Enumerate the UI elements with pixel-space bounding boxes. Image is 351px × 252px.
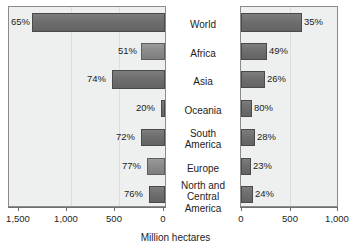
bar-row-africa-right	[241, 37, 337, 66]
bar-africa-left	[141, 43, 165, 60]
value-north-central-america-right: 24%	[255, 185, 274, 202]
bar-europe-left	[147, 158, 165, 175]
bar-africa-right	[241, 43, 267, 60]
tick-right-0	[241, 207, 242, 211]
tick-label-left-0: 0	[154, 213, 172, 224]
bar-world-right	[241, 13, 302, 32]
chart-figure: 65% 51% 74% 20% 72% 77% 76% World Africa…	[0, 0, 351, 252]
value-asia-left: 74%	[87, 70, 106, 87]
value-south-america-left: 72%	[116, 128, 135, 145]
region-label-europe: Europe	[166, 163, 240, 175]
region-label-column: World Africa Asia Oceania South America …	[166, 6, 240, 207]
value-asia-right: 26%	[267, 70, 286, 87]
value-world-right: 35%	[304, 13, 323, 30]
bar-row-africa-left	[9, 37, 165, 66]
tick-left-1000	[66, 207, 67, 211]
region-label-north-central-america: North and Central America	[166, 180, 240, 215]
left-axis-line	[8, 207, 166, 208]
bar-row-south-america-right	[241, 123, 337, 152]
bar-oceania-left	[161, 100, 165, 117]
region-label-africa: Africa	[166, 48, 240, 60]
right-axis-line	[240, 207, 338, 208]
bar-world-left	[32, 13, 165, 32]
value-africa-right: 49%	[269, 42, 288, 59]
tick-label-right-500: 500	[276, 213, 304, 224]
value-europe-right: 23%	[253, 157, 272, 174]
region-label-south-america: South America	[166, 128, 240, 151]
bar-oceania-right	[241, 100, 252, 117]
value-south-america-right: 28%	[257, 128, 276, 145]
value-oceania-left: 20%	[136, 99, 155, 116]
bar-row-world-left	[9, 8, 165, 37]
tick-label-left-1000: 1,000	[50, 213, 82, 224]
tick-left-1500	[18, 207, 19, 211]
bar-south-america-left	[141, 129, 165, 146]
region-label-world: World	[166, 19, 240, 31]
bar-north-central-america-right	[241, 186, 253, 203]
tick-right-500	[290, 207, 291, 211]
value-north-central-america-left: 76%	[124, 185, 143, 202]
value-africa-left: 51%	[118, 42, 137, 59]
bar-row-europe-left	[9, 152, 165, 181]
bar-row-asia-right	[241, 65, 337, 94]
bar-north-central-america-left	[149, 186, 165, 203]
tick-label-right-0: 0	[232, 213, 250, 224]
tick-label-right-1000: 1,000	[321, 213, 351, 224]
bar-asia-left	[112, 70, 165, 89]
tick-label-left-500: 500	[100, 213, 128, 224]
region-label-asia: Asia	[166, 76, 240, 88]
x-axis-label: Million hectares	[0, 232, 351, 243]
tick-label-left-1500: 1,500	[2, 213, 34, 224]
region-label-oceania: Oceania	[166, 105, 240, 117]
tick-left-0	[163, 207, 164, 211]
bar-south-america-right	[241, 129, 255, 146]
bar-asia-right	[241, 71, 265, 88]
value-europe-left: 77%	[122, 157, 141, 174]
bar-row-south-america-left	[9, 123, 165, 152]
tick-right-1000	[337, 207, 338, 211]
value-oceania-right: 80%	[254, 99, 273, 116]
value-world-left: 65%	[11, 13, 30, 30]
bar-europe-right	[241, 158, 251, 175]
tick-left-500	[114, 207, 115, 211]
